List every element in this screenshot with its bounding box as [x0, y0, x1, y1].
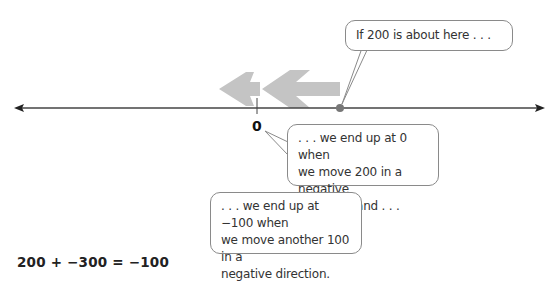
- bubble-200-tail: [342, 48, 368, 104]
- equation: 200 + −300 = −100: [17, 254, 169, 270]
- jump-arrow-200-to-0: [262, 70, 340, 108]
- zero-label: 0: [252, 118, 262, 134]
- bubble-zero-line-1: . . . we end up at 0 when: [298, 130, 428, 164]
- bubble-minus100-line-1: . . . we end up at −100 when: [221, 198, 351, 232]
- bubble-zero-tail: [265, 131, 288, 155]
- bubble-200-text: If 200 is about here . . .: [356, 28, 491, 42]
- jump-arrow-0-to-minus100: [219, 72, 260, 106]
- bubble-200: If 200 is about here . . .: [345, 20, 513, 51]
- bubble-minus100-line-3: negative direction.: [221, 266, 351, 283]
- point-200: [336, 104, 344, 112]
- bubble-minus100: . . . we end up at −100 when we move ano…: [210, 192, 362, 254]
- bubble-zero: . . . we end up at 0 when we move 200 in…: [287, 124, 439, 186]
- bubble-minus100-line-2: we move another 100 in a: [221, 232, 351, 266]
